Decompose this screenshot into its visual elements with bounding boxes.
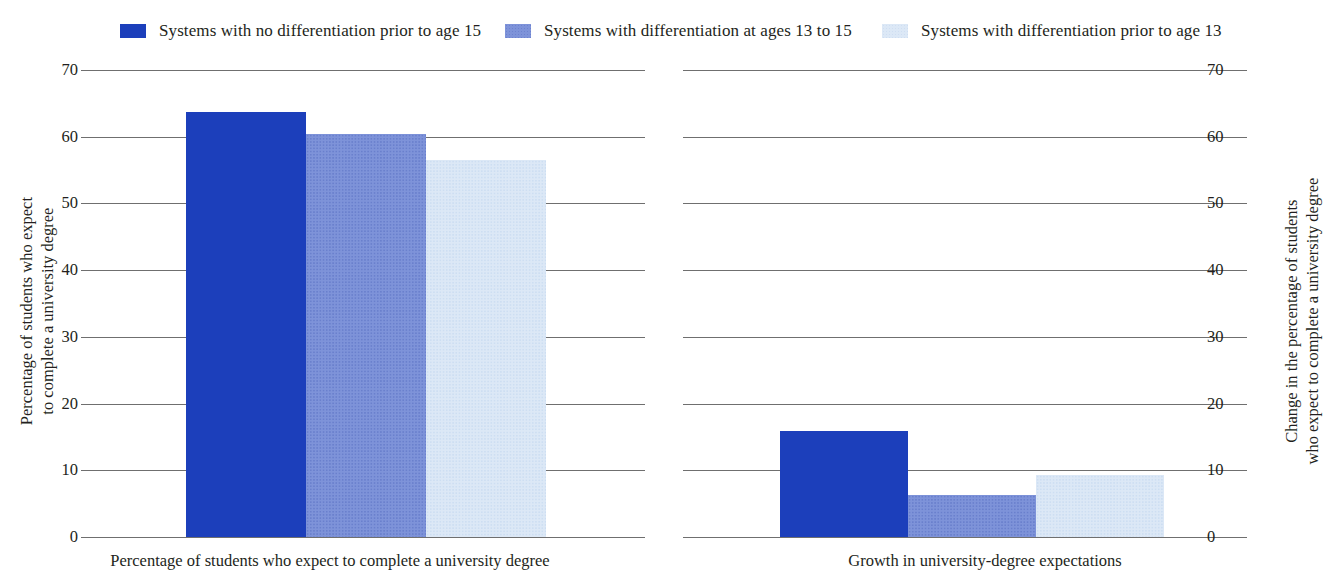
right-bar-group <box>683 70 1247 537</box>
y-tick-label: 70 <box>44 62 78 79</box>
y-tick-label: 50 <box>44 195 78 212</box>
left-y-axis-ticks: 70 60 50 40 30 20 10 0 <box>44 70 78 537</box>
y-tick-label: 40 <box>1207 262 1241 279</box>
bar-right-no-differentiation[interactable] <box>780 431 908 537</box>
left-x-axis-label: Percentage of students who expect to com… <box>0 551 660 571</box>
gridline-0 <box>81 537 645 538</box>
bar-left-no-differentiation[interactable] <box>186 112 306 538</box>
y-tick-label: 30 <box>44 329 78 346</box>
right-axis-title: Change in the percentage of students who… <box>1281 176 1323 466</box>
right-axis-title-line1: Change in the percentage of students <box>1281 176 1302 466</box>
y-tick-label: 10 <box>44 462 78 479</box>
left-axis-title-line1: Percentage of students who expect <box>16 186 37 436</box>
y-tick-label: 60 <box>44 128 78 145</box>
y-tick-label: 70 <box>1207 62 1241 79</box>
y-tick-label: 20 <box>44 395 78 412</box>
y-tick-label: 0 <box>1207 529 1241 546</box>
bar-left-differentiation-13-to-15[interactable] <box>306 134 426 538</box>
bar-right-differentiation-prior-13[interactable] <box>1036 475 1164 537</box>
y-tick-label: 60 <box>1207 128 1241 145</box>
y-tick-label: 30 <box>1207 329 1241 346</box>
left-plot-area <box>81 70 645 537</box>
left-bar-group <box>81 70 645 537</box>
y-tick-label: 40 <box>44 262 78 279</box>
y-tick-label: 0 <box>44 529 78 546</box>
panel-left: Percentage of students who expect to com… <box>0 0 660 582</box>
right-x-axis-label: Growth in university-degree expectations <box>660 551 1310 571</box>
right-axis-title-line2: who expect to complete a university degr… <box>1302 176 1323 466</box>
bar-right-differentiation-13-to-15[interactable] <box>908 495 1036 537</box>
y-tick-label: 10 <box>1207 462 1241 479</box>
bar-left-differentiation-prior-13[interactable] <box>426 160 546 537</box>
gridline-0 <box>683 537 1247 538</box>
right-plot-area <box>683 70 1247 537</box>
y-tick-label: 20 <box>1207 395 1241 412</box>
y-tick-label: 50 <box>1207 195 1241 212</box>
right-y-axis-ticks: 70 60 50 40 30 20 10 0 <box>1207 70 1241 537</box>
